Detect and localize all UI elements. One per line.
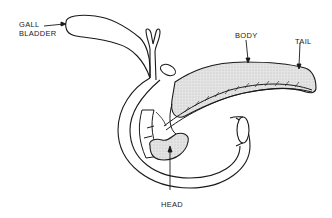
label-head: HEAD (161, 200, 183, 209)
pancreas-body-tail (172, 62, 316, 117)
label-tail: TAIL (295, 37, 311, 46)
label-gall-bladder: GALL BLADDER (19, 20, 57, 38)
gall-bladder-shape (66, 15, 150, 78)
pancreas-diagram: GALL BLADDER BODY TAIL HEAD (0, 0, 332, 218)
duodenum-end (237, 117, 249, 143)
label-body: BODY (235, 31, 257, 40)
pancreas-head (150, 133, 189, 160)
label-gall: GALL (19, 20, 57, 29)
label-bladder: BLADDER (19, 29, 57, 38)
